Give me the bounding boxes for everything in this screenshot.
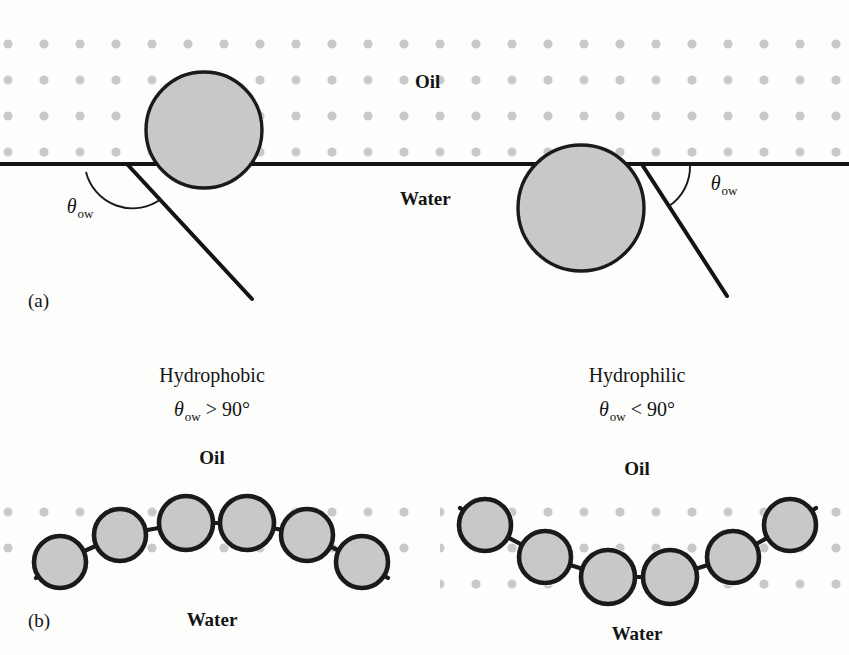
chain-particle bbox=[459, 499, 511, 551]
panel-b-tag: (b) bbox=[28, 610, 50, 632]
chain-particle bbox=[519, 531, 571, 583]
chain-particle bbox=[581, 550, 635, 604]
chain-particle bbox=[707, 531, 759, 583]
chain-particle bbox=[159, 496, 213, 550]
water-label-a: Water bbox=[400, 188, 451, 209]
chain-particle bbox=[94, 509, 146, 561]
chain-particle bbox=[336, 536, 388, 588]
panel-a-tag: (a) bbox=[28, 290, 49, 312]
water-label-b-left: Water bbox=[187, 609, 238, 630]
chain-particle bbox=[281, 509, 333, 561]
oil-label-b-left: Oil bbox=[199, 447, 224, 468]
theta-subscript: ow bbox=[185, 409, 202, 424]
particle-circle bbox=[146, 72, 262, 188]
chain-particle bbox=[764, 499, 816, 551]
theta-subscript: ow bbox=[77, 206, 94, 221]
theta-symbol: θ bbox=[67, 195, 77, 217]
hydrophilic-heading: Hydrophilic bbox=[589, 364, 686, 387]
oil-label-a: Oil bbox=[415, 71, 440, 92]
theta-subscript: ow bbox=[721, 183, 738, 198]
relation-lt90: < 90° bbox=[631, 398, 675, 420]
water-label-b-right: Water bbox=[612, 623, 663, 644]
theta-symbol: θ bbox=[174, 398, 184, 420]
particle-circle bbox=[518, 145, 644, 271]
chain-particle bbox=[34, 536, 86, 588]
figure-container: θow θow Oil Water (a) Hydrophobic θow> 9… bbox=[0, 0, 849, 655]
oil-label-b-right: Oil bbox=[624, 458, 649, 479]
theta-symbol: θ bbox=[599, 398, 609, 420]
hydrophobic-heading: Hydrophobic bbox=[159, 364, 265, 387]
theta-symbol: θ bbox=[711, 172, 721, 194]
chain-particle bbox=[643, 550, 697, 604]
theta-subscript: ow bbox=[610, 409, 627, 424]
chain-particle bbox=[220, 496, 274, 550]
relation-gt90: > 90° bbox=[206, 398, 250, 420]
figure-canvas: θow θow Oil Water (a) Hydrophobic θow> 9… bbox=[0, 0, 849, 655]
oil-phase-stipple-a bbox=[0, 24, 849, 172]
